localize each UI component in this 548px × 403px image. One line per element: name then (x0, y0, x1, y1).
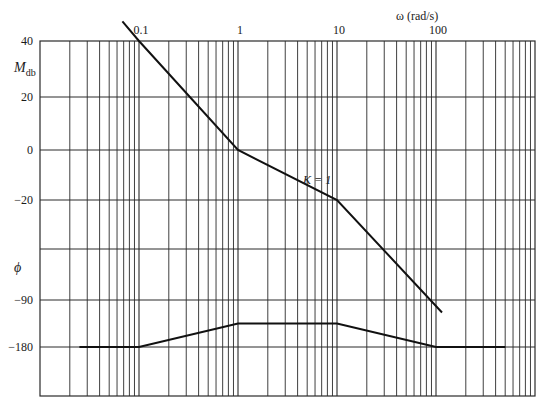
bode-plot-svg: ω (rad/s) Mdb ϕ 0.111010040200−20−90−180… (0, 0, 548, 403)
grid-lines (40, 41, 535, 396)
phase-tick-label: −90 (14, 293, 33, 307)
tick-labels: 0.111010040200−20−90−180 (8, 23, 447, 354)
x-axis-label: ω (rad/s) (396, 9, 438, 23)
phase-curve (79, 324, 505, 348)
gain-annotation: K = 1 (302, 173, 331, 187)
plot-curves (79, 21, 505, 347)
phase-axis-label: ϕ (14, 260, 21, 275)
annotations: K = 1 (302, 173, 331, 187)
phase-tick-label: −180 (8, 340, 33, 354)
x-tick-label: 1 (237, 23, 243, 37)
axis-labels: ω (rad/s) Mdb ϕ (13, 9, 438, 275)
x-tick-label: 100 (429, 23, 447, 37)
magnitude-tick-label: 20 (21, 90, 33, 104)
magnitude-axis-label: Mdb (13, 60, 36, 78)
magnitude-tick-label: −20 (14, 193, 33, 207)
x-tick-label: 0.1 (134, 23, 149, 37)
bode-plot: ω (rad/s) Mdb ϕ 0.111010040200−20−90−180… (0, 0, 548, 403)
magnitude-tick-label: 0 (27, 143, 33, 157)
magnitude-curve (122, 21, 442, 312)
plot-frame (40, 41, 535, 396)
x-tick-label: 10 (333, 23, 345, 37)
magnitude-tick-label: 40 (21, 34, 33, 48)
